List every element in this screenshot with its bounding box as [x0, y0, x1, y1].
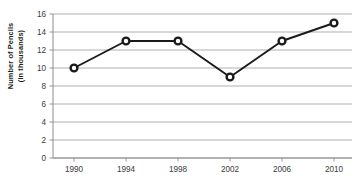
data-point-marker	[71, 65, 78, 72]
data-point-marker	[227, 74, 234, 81]
data-point-marker	[175, 38, 182, 45]
line-chart: Number of Pencils (in thousands) 0246810…	[0, 0, 361, 186]
gridlines	[53, 14, 352, 158]
data-point-marker	[331, 20, 338, 27]
data-point-marker	[123, 38, 130, 45]
x-axis-ticks	[74, 158, 334, 162]
plot-area	[0, 0, 361, 186]
y-axis-ticks	[50, 14, 54, 158]
data-point-marker	[279, 38, 286, 45]
